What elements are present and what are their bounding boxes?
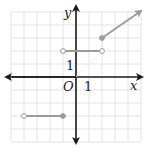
graph-pieces — [22, 11, 141, 118]
open-endpoint-icon — [61, 49, 66, 54]
open-endpoint-icon — [22, 114, 27, 119]
closed-endpoint-icon — [100, 36, 105, 41]
x-axis-label: x — [130, 78, 138, 93]
y-tick-label: 1 — [66, 58, 74, 73]
x-tick-label: 1 — [84, 79, 92, 94]
open-endpoint-icon — [100, 49, 105, 54]
closed-endpoint-icon — [61, 114, 66, 119]
coordinate-plane: y x O 1 1 — [0, 0, 147, 148]
y-axis-label: y — [63, 5, 72, 20]
origin-label: O — [63, 79, 74, 94]
